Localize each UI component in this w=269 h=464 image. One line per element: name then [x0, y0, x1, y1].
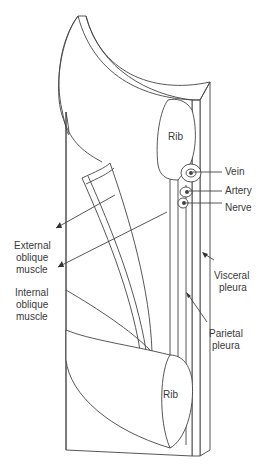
external-oblique-label-2: oblique — [16, 252, 49, 263]
rib-top-label: Rib — [168, 131, 183, 142]
visceral-pleura-label-1: Visceral — [214, 270, 249, 281]
external-oblique-label-3: muscle — [16, 264, 48, 275]
rib-bottom-label: Rib — [163, 389, 178, 400]
external-oblique-label-1: External — [14, 240, 51, 251]
nerve-dot — [182, 201, 186, 205]
vein-label: Vein — [225, 166, 244, 177]
internal-oblique-label-3: muscle — [16, 311, 48, 322]
artery-label: Artery — [225, 185, 252, 196]
intercostal-diagram: Rib Rib Vein Artery Nerve External — [0, 0, 269, 464]
nerve-label: Nerve — [225, 202, 252, 213]
internal-oblique-label-2: oblique — [16, 299, 49, 310]
parietal-pleura-label-2: pleura — [212, 340, 240, 351]
internal-oblique-label-1: Internal — [15, 287, 48, 298]
vein-dot — [189, 171, 193, 175]
visceral-pleura-label-2: pleura — [219, 282, 247, 293]
artery-dot — [185, 190, 189, 194]
parietal-pleura-label-1: Parietal — [209, 328, 243, 339]
